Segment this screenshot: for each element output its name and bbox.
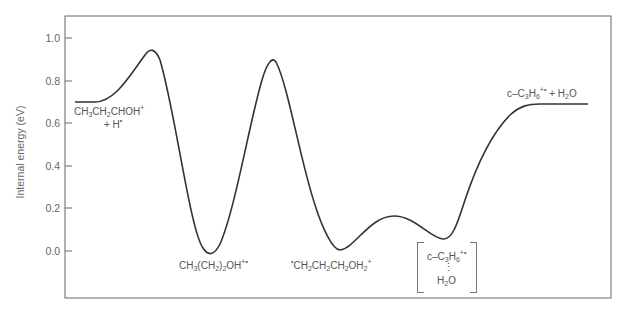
y-axis-label: Internal energy (eV) bbox=[14, 92, 26, 212]
y-tick-label: 0.8 bbox=[28, 75, 60, 87]
plot-frame bbox=[65, 16, 611, 298]
y-tick-label: 1.0 bbox=[28, 32, 60, 44]
y-tick-label: 0.2 bbox=[28, 202, 60, 214]
intermediate-1-label: CH3(CH2)2OH+• bbox=[179, 258, 248, 272]
energy-curve bbox=[75, 50, 588, 253]
y-ticks bbox=[65, 38, 72, 251]
product-label: c–C3H6+• + H2O bbox=[507, 86, 577, 100]
reactant-label: CH3CH2CHOH+ bbox=[74, 104, 144, 118]
y-tick-label: 0.0 bbox=[28, 245, 60, 257]
y-tick-label: 0.4 bbox=[28, 160, 60, 172]
complex-bracket-left bbox=[417, 242, 424, 293]
reactant-label-line2: + H• bbox=[104, 117, 122, 130]
y-tick-label: 0.6 bbox=[28, 117, 60, 129]
complex-bracket-right bbox=[470, 242, 477, 293]
complex-bond-dots: ⋮ bbox=[443, 262, 454, 273]
intermediate-2-label: •CH2CH2CH2OH2+ bbox=[291, 258, 372, 272]
complex-label-bottom: H2O bbox=[437, 276, 456, 287]
